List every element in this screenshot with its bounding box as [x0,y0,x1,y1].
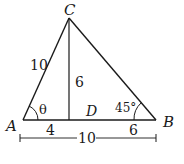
segment-db-length: 6 [129,122,138,138]
angle-a-arc [29,106,38,120]
vertex-c-label: C [64,1,76,19]
base-ab-length: 10 [78,130,96,146]
angle-a-label: θ [39,102,47,117]
side-cb [69,18,156,120]
altitude-cd-length: 6 [75,74,84,90]
point-d-label: D [85,103,97,119]
vertex-a-label: A [4,117,17,135]
vertex-b-label: B [162,113,174,131]
angle-b-label: 45° [115,101,136,115]
side-ac-length: 10 [30,57,48,73]
segment-ad-length: 4 [46,122,55,138]
triangle-diagram: C A B D 10 6 4 6 10 θ 45° [0,0,184,164]
